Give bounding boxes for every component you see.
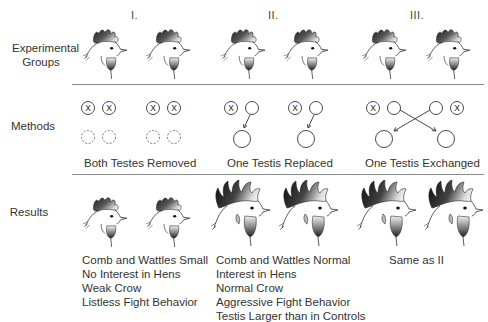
result-item: Weak Crow (82, 281, 208, 295)
row-label-results: Results (6, 205, 52, 219)
removed-testis-icon: X (82, 102, 95, 115)
testis-icon (310, 102, 323, 115)
rooster-head-icon (80, 27, 128, 81)
rooster-head-icon (143, 195, 191, 249)
result-item: Normal Crow (216, 281, 366, 295)
testis-icon (298, 131, 315, 148)
arrow-icon (394, 110, 430, 131)
svg-text:X: X (228, 103, 234, 113)
svg-text:X: X (292, 103, 298, 113)
testis-icon (376, 131, 393, 148)
removed-testis-icon: X (103, 102, 116, 115)
svg-text:X: X (454, 103, 460, 113)
rooster-head-icon (218, 27, 266, 81)
testis-icon (388, 102, 401, 115)
result-item: Listless Fight Behavior (82, 295, 208, 309)
testis-icon (438, 131, 455, 148)
rooster-head-icon (423, 27, 471, 81)
removed-testis-icon: X (289, 102, 302, 115)
group-label-iii: III. (410, 9, 424, 21)
row-label-experimental-groups: Experimental Groups (12, 41, 70, 69)
divider-line (72, 84, 484, 85)
rooster-head-icon (281, 27, 329, 81)
row-label-line: Experimental (12, 41, 70, 55)
group-label-ii: II. (268, 9, 279, 21)
result-item: Interest in Hens (216, 267, 366, 281)
svg-text:X: X (150, 103, 156, 113)
rooster-head-icon (143, 27, 191, 81)
removed-testis-icon: X (367, 102, 380, 115)
methods-diagram: X X X X X X X X (72, 95, 484, 155)
removed-testis-icon: X (225, 102, 238, 115)
rooster-head-icon (359, 27, 407, 81)
rooster-head-large-icon (422, 180, 484, 250)
row-label-line: Groups (12, 55, 70, 69)
rooster-head-large-icon (277, 180, 339, 250)
result-item: Aggressive Fight Behavior (216, 295, 366, 309)
svg-text:X: X (85, 103, 91, 113)
row-label-methods: Methods (8, 119, 58, 133)
removed-testis-icon: X (147, 102, 160, 115)
result-list-ii: Comb and Wattles Normal Interest in Hens… (216, 253, 366, 322)
svg-text:X: X (171, 103, 177, 113)
svg-text:X: X (106, 103, 112, 113)
group-label-i: I. (131, 9, 138, 21)
removed-testis-icon: X (168, 102, 181, 115)
testis-icon (430, 102, 443, 115)
testis-icon (234, 131, 251, 148)
divider-line (72, 174, 484, 175)
rooster-head-icon (80, 195, 128, 249)
removed-testis-icon: X (451, 102, 464, 115)
arrow-icon (400, 110, 436, 131)
method-caption-i: Both Testes Removed (84, 157, 196, 169)
method-caption-iii: One Testis Exchanged (365, 157, 480, 169)
method-caption-ii: One Testis Replaced (227, 157, 333, 169)
result-item: No Interest in Hens (82, 267, 208, 281)
result-list-i: Comb and Wattles Small No Interest in He… (82, 253, 208, 309)
rooster-head-large-icon (209, 180, 271, 250)
result-list-iii: Same as II (389, 253, 444, 267)
result-item: Testis Larger than in Controls (216, 309, 366, 322)
result-item: Same as II (389, 253, 444, 267)
result-item: Comb and Wattles Normal (216, 253, 366, 267)
svg-text:X: X (370, 103, 376, 113)
testis-icon (246, 102, 259, 115)
empty-position-icon (82, 131, 181, 144)
result-item: Comb and Wattles Small (82, 253, 208, 267)
rooster-head-large-icon (355, 180, 417, 250)
